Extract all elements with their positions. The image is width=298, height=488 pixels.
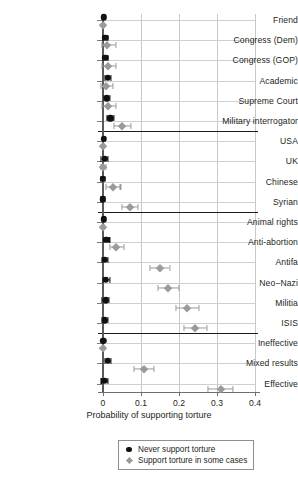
separator-after-isis (98, 333, 258, 334)
y-tick-label-anti-abortion: Anti-abortion (206, 237, 298, 247)
y-tick-label-academic: Academic (206, 76, 298, 86)
y-tick-label-mixed-results: Mixed results (206, 358, 298, 368)
data-point-support-some-cases (126, 203, 134, 211)
error-bar-cap (208, 386, 209, 392)
legend-item-never-support: Never support torture (123, 444, 247, 455)
error-bar-cap (116, 63, 117, 69)
y-tick-label-chinese: Chinese (206, 177, 298, 187)
error-bar-cap (107, 156, 108, 162)
data-point-support-some-cases (191, 324, 199, 332)
chart-legend: Never support torture Support torture in… (118, 440, 254, 470)
legend-label: Never support torture (138, 445, 215, 454)
legend-item-support-some-cases: Support torture in some cases (123, 455, 247, 466)
error-bar-cap (108, 257, 109, 263)
y-tick-label-neo-nazi: Neo−Nazi (206, 278, 298, 288)
legend-circle-icon (123, 447, 135, 452)
x-tick-label-3: 0.3 (211, 398, 223, 408)
y-tick-label-militia: Militia (206, 298, 298, 308)
error-bar-cap (109, 244, 110, 250)
y-tick-mark-1 (97, 40, 102, 41)
legend-diamond-icon (123, 458, 135, 463)
error-bar-cap (113, 123, 114, 129)
data-point-support-some-cases (164, 284, 172, 292)
data-point-support-some-cases (156, 264, 164, 272)
y-tick-label-syrian: Syrian (206, 197, 298, 207)
y-tick-label-uk: UK (206, 156, 298, 166)
error-bar-cap (207, 325, 208, 331)
gridline-v-2 (179, 14, 180, 392)
x-tick-mark-3 (217, 392, 218, 396)
y-tick-label-isis: ISIS (206, 318, 298, 328)
error-bar-cap (175, 305, 176, 311)
error-bar-cap (109, 297, 110, 303)
data-point-support-some-cases (103, 41, 111, 49)
data-point-support-some-cases (99, 223, 107, 231)
data-point-support-some-cases (183, 304, 191, 312)
error-bar-cap (109, 277, 110, 283)
data-point-support-some-cases (99, 142, 107, 150)
y-tick-label-congress-dem-: Congress (Dem) (206, 35, 298, 45)
y-tick-label-animal-rights: Animal rights (206, 217, 298, 227)
x-tick-mark-0 (103, 392, 104, 396)
error-bar-cap (198, 305, 199, 311)
error-bar-cap (138, 204, 139, 210)
error-bar-cap (107, 378, 108, 384)
error-bar-cap (130, 123, 131, 129)
data-point-support-some-cases (104, 102, 112, 110)
x-axis-title: Probability of supporting torture (0, 410, 298, 420)
error-bar-cap (112, 83, 113, 89)
error-bar-cap (134, 366, 135, 372)
x-tick-label-0: 0 (101, 398, 106, 408)
y-tick-label-usa: USA (206, 136, 298, 146)
data-point-support-some-cases (118, 122, 126, 130)
error-bar-cap (150, 265, 151, 271)
zero-line (102, 14, 103, 392)
y-tick-mark-11 (97, 242, 102, 243)
error-bar-cap (154, 366, 155, 372)
error-bar-cap (178, 285, 179, 291)
gridline-v-1 (141, 14, 142, 392)
error-bar-cap (124, 244, 125, 250)
x-tick-mark-1 (141, 392, 142, 396)
error-bar-cap (121, 204, 122, 210)
data-point-support-some-cases (112, 243, 120, 251)
data-point-support-some-cases (99, 344, 107, 352)
x-tick-label-2: 0.2 (173, 398, 185, 408)
y-tick-mark-4 (97, 101, 102, 102)
y-tick-label-antifa: Antifa (206, 257, 298, 267)
legend-label: Support torture in some cases (138, 456, 247, 465)
y-tick-mark-3 (97, 81, 102, 82)
error-bar-cap (108, 317, 109, 323)
separator-after-military-interrogator (98, 131, 258, 132)
y-tick-label-military-interrogator: Military interrogator (206, 116, 298, 126)
error-bar-cap (115, 103, 116, 109)
y-tick-label-congress-gop-: Congress (GOP) (206, 55, 298, 65)
data-point-support-some-cases (109, 183, 117, 191)
error-bar-cap (111, 75, 112, 81)
y-tick-mark-2 (97, 60, 102, 61)
error-bar-cap (158, 285, 159, 291)
x-tick-label-4: 0.4 (249, 398, 261, 408)
x-tick-mark-4 (255, 392, 256, 396)
error-bar-cap (233, 386, 234, 392)
error-bar-cap (102, 103, 103, 109)
error-bar-cap (113, 115, 114, 121)
data-point-support-some-cases (104, 62, 112, 70)
error-bar-cap (115, 42, 116, 48)
error-bar-cap (169, 265, 170, 271)
error-bar-cap (120, 184, 121, 190)
data-point-support-some-cases (99, 21, 107, 29)
error-bar-cap (105, 184, 106, 190)
y-tick-label-friend: Friend (206, 15, 298, 25)
x-tick-mark-2 (179, 392, 180, 396)
error-bar-cap (101, 42, 102, 48)
y-tick-mark-17 (97, 363, 102, 364)
forest-plot-chart: FriendCongress (Dem)Congress (GOP)Academ… (0, 0, 298, 488)
y-tick-label-supreme-court: Supreme Court (206, 96, 298, 106)
y-tick-mark-5 (97, 121, 102, 122)
y-tick-label-ineffective: Ineffective (206, 338, 298, 348)
error-bar-cap (102, 63, 103, 69)
separator-after-syrian (98, 212, 258, 213)
error-bar-cap (183, 325, 184, 331)
x-tick-label-1: 0.1 (135, 398, 147, 408)
